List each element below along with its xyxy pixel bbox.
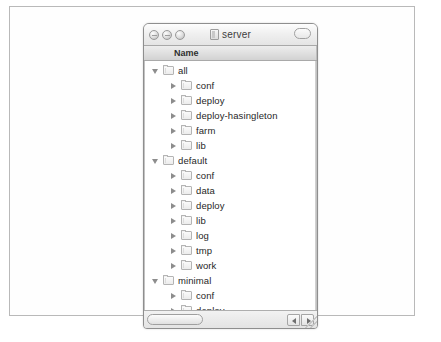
column-header-name: Name <box>174 48 199 58</box>
window-title: server <box>222 29 251 40</box>
list-item-label: all <box>178 65 188 76</box>
folder-icon <box>181 126 192 135</box>
folder-icon <box>181 111 192 120</box>
chevron-right-icon[interactable] <box>169 261 178 270</box>
folder-icon <box>181 291 192 300</box>
chevron-right-icon[interactable] <box>169 126 178 135</box>
folder-icon <box>181 171 192 180</box>
list-item-label: conf <box>196 80 214 91</box>
chevron-right-icon[interactable] <box>169 216 178 225</box>
folder-icon <box>181 186 192 195</box>
list-item[interactable]: lib <box>145 213 316 228</box>
chevron-right-icon[interactable] <box>169 81 178 90</box>
file-list[interactable]: allconfdeploydeploy-hasingletonfarmlibde… <box>144 61 317 313</box>
chevron-right-icon[interactable] <box>169 186 178 195</box>
window-titlebar[interactable]: server <box>144 24 317 46</box>
chevron-right-icon[interactable] <box>169 231 178 240</box>
list-column-divider <box>315 61 316 313</box>
list-item-label: lib <box>196 140 206 151</box>
folder-icon <box>181 201 192 210</box>
column-header[interactable]: Name <box>144 46 317 61</box>
list-item-label: deploy-hasingleton <box>196 110 278 121</box>
folder-icon <box>181 81 192 90</box>
chevron-right-icon[interactable] <box>169 246 178 255</box>
list-item[interactable]: conf <box>145 168 316 183</box>
finder-window: server Name allconfdeploydeploy-hasingle… <box>143 23 318 329</box>
chevron-down-icon[interactable] <box>151 276 160 285</box>
list-item[interactable]: tmp <box>145 243 316 258</box>
folder-icon <box>181 261 192 270</box>
scroll-left-icon[interactable] <box>287 314 300 326</box>
horizontal-scrollbar[interactable] <box>144 310 317 328</box>
toolbar-toggle-button[interactable] <box>294 28 311 39</box>
folder-icon <box>163 276 174 285</box>
figure-border: server Name allconfdeploydeploy-hasingle… <box>9 6 415 316</box>
chevron-down-icon[interactable] <box>151 156 160 165</box>
list-item[interactable]: conf <box>145 78 316 93</box>
list-item-label: work <box>196 260 216 271</box>
list-item-label: deploy <box>196 95 225 106</box>
list-item[interactable]: lib <box>145 138 316 153</box>
list-item-label: lib <box>196 215 206 226</box>
file-list-rows: allconfdeploydeploy-hasingletonfarmlibde… <box>145 61 316 313</box>
chevron-right-icon[interactable] <box>169 111 178 120</box>
list-item[interactable]: conf <box>145 288 316 303</box>
chevron-down-icon[interactable] <box>151 66 160 75</box>
list-item[interactable]: log <box>145 228 316 243</box>
column-divider[interactable] <box>316 46 317 60</box>
resize-grip[interactable] <box>303 314 317 328</box>
folder-icon <box>163 66 174 75</box>
list-item[interactable]: work <box>145 258 316 273</box>
folder-icon <box>210 29 219 40</box>
list-item-label: deploy <box>196 200 225 211</box>
folder-icon <box>181 231 192 240</box>
chevron-right-icon[interactable] <box>169 171 178 180</box>
folder-icon <box>181 141 192 150</box>
list-item-label: conf <box>196 170 214 181</box>
folder-icon <box>181 246 192 255</box>
zoom-button[interactable] <box>175 30 185 40</box>
chevron-right-icon[interactable] <box>169 201 178 210</box>
list-item-label: farm <box>196 125 215 136</box>
list-item[interactable]: minimal <box>145 273 316 288</box>
scrollbar-thumb[interactable] <box>147 314 203 325</box>
minimize-button[interactable] <box>162 30 172 40</box>
close-button[interactable] <box>149 30 159 40</box>
list-item[interactable]: deploy <box>145 93 316 108</box>
folder-icon <box>181 216 192 225</box>
list-item-label: default <box>178 155 207 166</box>
list-item[interactable]: default <box>145 153 316 168</box>
chevron-right-icon[interactable] <box>169 96 178 105</box>
list-item[interactable]: data <box>145 183 316 198</box>
list-item[interactable]: deploy-hasingleton <box>145 108 316 123</box>
list-item-label: data <box>196 185 215 196</box>
list-item[interactable]: all <box>145 63 316 78</box>
list-item-label: log <box>196 230 209 241</box>
list-item[interactable]: deploy <box>145 198 316 213</box>
window-controls <box>149 30 185 40</box>
list-item-label: tmp <box>196 245 212 256</box>
chevron-right-icon[interactable] <box>169 291 178 300</box>
list-item[interactable]: farm <box>145 123 316 138</box>
folder-icon <box>181 96 192 105</box>
chevron-right-icon[interactable] <box>169 141 178 150</box>
list-item-label: conf <box>196 290 214 301</box>
folder-icon <box>163 156 174 165</box>
list-item-label: minimal <box>178 275 211 286</box>
